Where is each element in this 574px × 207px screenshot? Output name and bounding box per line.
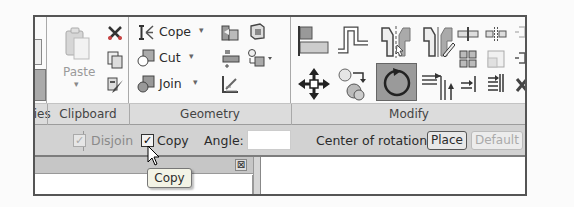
array-icon[interactable] bbox=[459, 50, 477, 68]
panel-label-geometry[interactable]: Geometry bbox=[129, 107, 291, 121]
join-label: Join bbox=[159, 76, 182, 91]
angle-input[interactable] bbox=[247, 130, 291, 150]
type-properties-icon[interactable] bbox=[35, 69, 46, 101]
copy-clipboard-icon[interactable] bbox=[107, 51, 123, 69]
split-element-icon[interactable] bbox=[457, 27, 479, 41]
cope-button[interactable]: Cope ▾ bbox=[137, 23, 215, 43]
mirror-draw-axis-icon[interactable] bbox=[421, 25, 455, 59]
join-dropdown-arrow[interactable]: ▾ bbox=[193, 77, 198, 87]
disjoin-label: Disjoin bbox=[91, 133, 133, 148]
rotate-button[interactable] bbox=[376, 63, 417, 101]
revit-window: Paste ▾ C bbox=[33, 15, 527, 196]
center-of-rotation-label: Center of rotation: bbox=[316, 133, 431, 148]
linework-icon[interactable] bbox=[221, 75, 239, 93]
place-button[interactable]: Place bbox=[427, 131, 467, 150]
scale-icon[interactable] bbox=[487, 50, 505, 68]
palette-splitter[interactable] bbox=[253, 157, 261, 196]
join-icon bbox=[137, 75, 155, 93]
offset-icon[interactable] bbox=[336, 25, 370, 57]
cope-icon bbox=[137, 24, 154, 41]
properties-palette-body bbox=[35, 175, 253, 196]
split-face-icon[interactable] bbox=[249, 23, 266, 40]
properties-palette-header: ⊠ bbox=[35, 157, 253, 174]
modify-panel bbox=[291, 17, 527, 103]
paste-button[interactable]: Paste ▾ bbox=[55, 23, 99, 93]
close-icon[interactable]: ⊠ bbox=[235, 159, 247, 171]
copy-modify-icon[interactable] bbox=[337, 67, 371, 101]
ribbon: Paste ▾ C bbox=[35, 17, 525, 103]
wall-joins-icon[interactable] bbox=[221, 23, 239, 41]
cut-dropdown-arrow[interactable]: ▾ bbox=[189, 51, 194, 61]
cope-label: Cope bbox=[159, 24, 191, 39]
cut-icon[interactable] bbox=[107, 25, 123, 41]
trim-extend-single-icon[interactable] bbox=[459, 75, 478, 93]
paste-icon bbox=[65, 27, 91, 61]
geometry-panel: Cope ▾ Cut ▾ Join ▾ bbox=[129, 17, 291, 103]
properties-icon[interactable] bbox=[35, 39, 42, 65]
trim-extend-multiple-icon[interactable] bbox=[486, 73, 505, 93]
paint-icon[interactable] bbox=[247, 49, 273, 67]
paste-dropdown-arrow[interactable]: ▾ bbox=[74, 79, 79, 89]
cut-geometry-button[interactable]: Cut ▾ bbox=[137, 49, 207, 69]
move-icon[interactable] bbox=[297, 67, 331, 101]
rotate-icon bbox=[381, 66, 413, 98]
panel-labels-row: ties Clipboard Geometry Modify bbox=[35, 103, 525, 125]
cope-dropdown-arrow[interactable]: ▾ bbox=[199, 25, 204, 35]
trim-extend-corner-icon[interactable] bbox=[421, 69, 455, 101]
angle-label: Angle: bbox=[204, 133, 244, 148]
delete-icon[interactable] bbox=[515, 77, 527, 93]
panel-label-modify[interactable]: Modify bbox=[291, 107, 527, 121]
copy-tooltip: Copy bbox=[147, 168, 192, 188]
cut-label: Cut bbox=[159, 50, 181, 65]
pin-icon[interactable] bbox=[515, 25, 527, 41]
demolish-icon[interactable] bbox=[221, 49, 240, 69]
join-button[interactable]: Join ▾ bbox=[137, 75, 207, 95]
split-gap-icon[interactable] bbox=[485, 27, 507, 41]
copy-label: Copy bbox=[157, 133, 189, 148]
drawing-area[interactable] bbox=[261, 157, 527, 196]
clipboard-panel: Paste ▾ bbox=[47, 17, 129, 103]
align-icon[interactable] bbox=[297, 25, 330, 57]
match-properties-icon[interactable] bbox=[107, 77, 124, 94]
properties-panel bbox=[35, 17, 47, 103]
workspace-area: ⊠ bbox=[35, 157, 525, 196]
mirror-pick-axis-icon[interactable] bbox=[379, 25, 413, 59]
paste-label: Paste bbox=[63, 65, 95, 79]
unpin-icon[interactable] bbox=[515, 51, 527, 67]
panel-label-clipboard[interactable]: Clipboard bbox=[47, 107, 129, 121]
default-button[interactable]: Default bbox=[471, 131, 523, 150]
mouse-cursor-icon bbox=[147, 145, 161, 167]
cut-geometry-icon bbox=[137, 49, 155, 67]
options-bar: ✓ Disjoin ✓ Copy Angle: Center of rotati… bbox=[35, 125, 525, 157]
disjoin-checkbox[interactable]: ✓ bbox=[73, 134, 86, 147]
